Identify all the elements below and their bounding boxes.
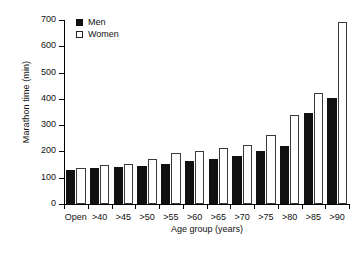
bar-men-over70 [232, 156, 241, 204]
bar-women-over65 [219, 148, 228, 204]
bar-women-over85 [314, 93, 323, 204]
bar-women-Open [76, 168, 85, 204]
bar-men-Open [66, 170, 75, 204]
x-tick [159, 205, 160, 209]
bar-men-over55 [161, 164, 170, 204]
x-axis-title: Age group (years) [64, 224, 350, 234]
x-tick [325, 205, 326, 209]
x-tick [278, 205, 279, 209]
bar-women-over45 [124, 164, 133, 204]
x-tick [183, 205, 184, 209]
bar-men-over50 [137, 166, 146, 204]
x-tick [207, 205, 208, 209]
legend-label: Men [88, 16, 106, 28]
bar-women-over75 [266, 135, 275, 204]
legend-label: Women [88, 28, 119, 40]
bar-women-over80 [290, 115, 299, 204]
y-tick-label: 300 [41, 119, 56, 130]
y-tick-label: 100 [41, 172, 56, 183]
legend-item-women: Women [76, 28, 119, 40]
bar-men-over45 [114, 167, 123, 204]
y-tick: 100 [59, 178, 64, 179]
y-tick: 700 [59, 20, 64, 21]
y-tick-label: 200 [41, 145, 56, 156]
y-tick-label: 0 [51, 198, 56, 209]
bar-men-over75 [256, 151, 265, 204]
bar-men-over65 [209, 159, 218, 204]
y-tick: 400 [59, 99, 64, 100]
bar-men-over60 [185, 161, 194, 204]
y-axis-line [64, 20, 65, 205]
bar-women-over90 [338, 22, 347, 204]
legend-item-men: Men [76, 16, 119, 28]
x-tick [135, 205, 136, 209]
y-tick-label: 400 [41, 93, 56, 104]
x-tick [88, 205, 89, 209]
bar-women-over40 [100, 165, 109, 204]
y-tick-label: 500 [41, 67, 56, 78]
y-tick: 200 [59, 151, 64, 152]
bar-men-over85 [304, 113, 313, 204]
bar-men-over80 [280, 146, 289, 204]
bar-men-over40 [90, 168, 99, 204]
x-tick-label: >90 [317, 212, 357, 223]
bar-women-over55 [171, 153, 180, 204]
y-tick-label: 700 [41, 14, 56, 25]
bar-women-over50 [148, 159, 157, 204]
filled-square-marker-icon [76, 19, 83, 26]
x-tick [349, 205, 350, 209]
y-axis-title: Marathon time (min) [21, 32, 31, 172]
x-tick [254, 205, 255, 209]
x-tick [302, 205, 303, 209]
bar-women-over60 [195, 151, 204, 204]
chart-legend: MenWomen [76, 16, 119, 40]
x-tick [112, 205, 113, 209]
y-tick: 600 [59, 46, 64, 47]
bar-women-over70 [243, 145, 252, 204]
open-square-marker-icon [76, 31, 83, 38]
y-tick: 300 [59, 125, 64, 126]
y-tick: 500 [59, 73, 64, 74]
x-tick [230, 205, 231, 209]
bar-men-over90 [327, 98, 336, 204]
y-tick-label: 600 [41, 40, 56, 51]
marathon-time-bar-chart: Marathon time (min) 01002003004005006007… [0, 0, 359, 259]
plot-area: 0100200300400500600700 Open>40>45>50>55>… [64, 20, 349, 204]
x-tick [64, 205, 65, 209]
